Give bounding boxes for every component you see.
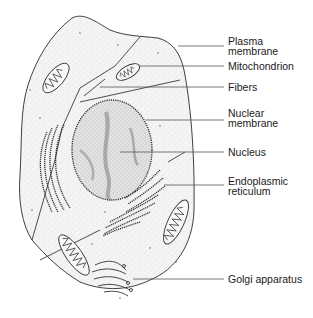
- label-mitochondrion: Mitochondrion: [228, 61, 294, 71]
- label-plasma-membrane: Plasma membrane: [228, 36, 278, 56]
- label-golgi-apparatus: Golgi apparatus: [228, 274, 302, 284]
- label-nuclear-membrane: Nuclear membrane: [228, 108, 278, 128]
- label-nucleus: Nucleus: [228, 147, 266, 157]
- label-fibers: Fibers: [228, 82, 257, 92]
- label-endoplasmic-reticulum: Endoplasmic reticulum: [228, 176, 288, 196]
- nucleus: [72, 100, 152, 200]
